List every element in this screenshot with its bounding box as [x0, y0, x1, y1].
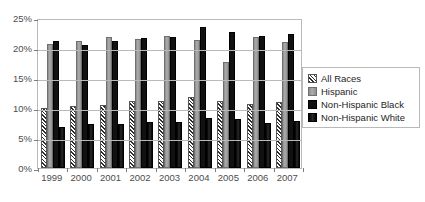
y-axis-tick [34, 110, 38, 111]
bar [59, 127, 65, 168]
bar-group [97, 20, 126, 168]
y-axis: 0%5%10%15%20%25% [0, 0, 36, 202]
bar-group [156, 20, 185, 168]
bar-group [215, 20, 244, 168]
plot-area [37, 19, 302, 169]
gridline [38, 140, 301, 141]
legend-swatch-icon [308, 74, 317, 83]
gridline [38, 110, 301, 111]
legend-swatch-icon [308, 87, 317, 96]
x-tick-label: 2004 [184, 172, 213, 184]
x-tick-label: 2007 [273, 172, 302, 184]
legend-label: Non-Hispanic Black [321, 99, 404, 110]
legend-swatch-icon [308, 100, 317, 109]
y-tick-label: 20% [13, 44, 32, 54]
gridline [38, 80, 301, 81]
x-tick-label: 2001 [96, 172, 125, 184]
bar [118, 124, 124, 168]
bar-group [126, 20, 155, 168]
bar-chart: 0%5%10%15%20%25% 19992000200120022003200… [0, 0, 425, 202]
legend-label: Hispanic [321, 86, 357, 97]
x-tick-label: 2002 [125, 172, 154, 184]
chart-legend: All RacesHispanicNon-Hispanic BlackNon-H… [302, 67, 420, 128]
x-axis: 199920002001200220032004200520062007 [37, 172, 302, 188]
x-tick-label: 2005 [214, 172, 243, 184]
bar [88, 124, 94, 168]
bar-group [244, 20, 273, 168]
x-tick-label: 1999 [37, 172, 66, 184]
y-axis-tick [34, 20, 38, 21]
x-tick-label: 2003 [155, 172, 184, 184]
y-axis-tick [34, 50, 38, 51]
bar [235, 119, 241, 168]
bar [265, 123, 271, 168]
legend-swatch-icon [308, 113, 317, 122]
bar [206, 118, 212, 168]
gridline [38, 50, 301, 51]
bar [294, 121, 300, 168]
legend-label: All Races [321, 73, 361, 84]
legend-label: Non-Hispanic White [321, 112, 405, 123]
x-tick-label: 2000 [66, 172, 95, 184]
y-tick-label: 0% [18, 164, 32, 174]
x-axis-tick [303, 168, 304, 172]
legend-item[interactable]: All Races [308, 72, 415, 84]
bar-group [185, 20, 214, 168]
y-tick-label: 25% [13, 14, 32, 24]
y-tick-label: 15% [13, 74, 32, 84]
legend-item[interactable]: Hispanic [308, 85, 415, 97]
y-tick-label: 10% [13, 104, 32, 114]
bar-group [274, 20, 303, 168]
y-axis-tick [34, 80, 38, 81]
x-tick-label: 2006 [243, 172, 272, 184]
y-tick-label: 5% [18, 134, 32, 144]
y-axis-tick [34, 140, 38, 141]
legend-item[interactable]: Non-Hispanic Black [308, 98, 415, 110]
bar [147, 122, 153, 168]
bar-group [38, 20, 67, 168]
bar [176, 122, 182, 168]
bar-groups-layer [38, 20, 301, 168]
legend-item[interactable]: Non-Hispanic White [308, 111, 415, 123]
bar-group [67, 20, 96, 168]
